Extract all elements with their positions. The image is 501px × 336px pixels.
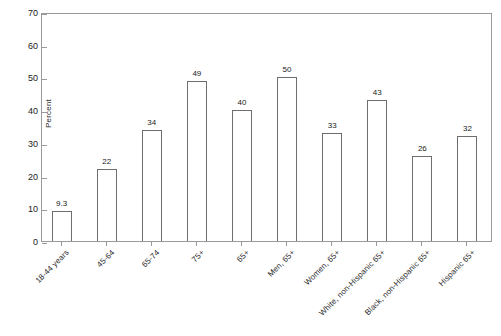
y-tick: 20 — [42, 178, 47, 179]
y-tick-mark — [42, 14, 47, 15]
y-tick: 40 — [42, 112, 47, 113]
x-tick-label: 18-44 years — [34, 248, 71, 285]
x-tick-label: Hispanic 65+ — [437, 248, 477, 288]
bar: 22 — [97, 169, 117, 241]
y-tick-label: 40 — [12, 106, 38, 116]
bar-chart: Percent 010203040506070 9.32234494050334… — [0, 0, 501, 336]
y-tick-label: 20 — [12, 172, 38, 182]
x-tick-label: 75+ — [190, 248, 206, 264]
x-tick-label: Men, 65+ — [266, 248, 297, 279]
x-tick-mark — [286, 242, 287, 246]
y-tick: 60 — [42, 47, 47, 48]
y-tick-mark — [42, 112, 47, 113]
x-tick-label: 45-64 — [95, 248, 116, 269]
y-tick-label: 50 — [12, 73, 38, 83]
y-tick-mark — [42, 47, 47, 48]
x-tick-mark — [241, 242, 242, 246]
bar: 26 — [412, 156, 432, 241]
bar: 33 — [322, 133, 342, 241]
x-tick-label: Women, 65+ — [302, 248, 341, 287]
bar-value-label: 40 — [237, 98, 246, 107]
y-tick-label: 70 — [12, 8, 38, 18]
bar-value-label: 9.3 — [56, 199, 67, 208]
bar: 43 — [367, 100, 387, 241]
bar-value-label: 26 — [418, 144, 427, 153]
y-tick: 10 — [42, 210, 47, 211]
bar-value-label: 34 — [147, 118, 156, 127]
bar-value-label: 50 — [283, 65, 292, 74]
y-tick-label: 10 — [12, 204, 38, 214]
y-tick: 50 — [42, 79, 47, 80]
y-tick-label: 30 — [12, 139, 38, 149]
bar: 40 — [232, 110, 252, 241]
x-tick-mark — [106, 242, 107, 246]
y-tick-mark — [42, 210, 47, 211]
y-tick-mark — [42, 79, 47, 80]
bar: 32 — [457, 136, 477, 241]
y-tick: 30 — [42, 145, 47, 146]
x-tick-mark — [421, 242, 422, 246]
bar: 34 — [142, 130, 162, 241]
bar: 49 — [187, 81, 207, 241]
x-tick-mark — [61, 242, 62, 246]
bar-value-label: 49 — [192, 69, 201, 78]
x-tick-mark — [151, 242, 152, 246]
x-tick-mark — [331, 242, 332, 246]
bar: 50 — [277, 77, 297, 241]
y-tick-label: 0 — [12, 237, 38, 247]
bar-value-label: 22 — [102, 157, 111, 166]
y-tick-label: 60 — [12, 41, 38, 51]
x-axis: 18-44 years45-6465-7475+65+Men, 65+Women… — [41, 242, 492, 336]
y-tick-mark — [42, 178, 47, 179]
bar: 9.3 — [52, 211, 72, 241]
x-tick-mark — [376, 242, 377, 246]
bar-value-label: 32 — [463, 124, 472, 133]
bar-value-label: 43 — [373, 88, 382, 97]
x-tick-mark — [196, 242, 197, 246]
y-tick: 70 — [42, 14, 47, 15]
x-tick-label: 65-74 — [140, 248, 161, 269]
y-tick-mark — [42, 145, 47, 146]
x-tick-mark — [466, 242, 467, 246]
plot-area: Percent 010203040506070 9.32234494050334… — [41, 13, 492, 242]
x-tick-label: 65+ — [235, 248, 251, 264]
bar-value-label: 33 — [328, 121, 337, 130]
